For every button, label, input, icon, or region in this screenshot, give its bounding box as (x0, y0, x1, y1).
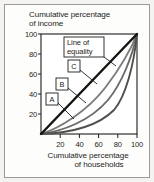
y-axis-title-line2: of income (29, 19, 64, 28)
x-tick-label-100: 100 (131, 140, 143, 149)
chart-canvas: Cumulative percentage of income 100 80 6… (0, 0, 154, 182)
callout-label-curve-c: C (71, 62, 77, 71)
x-axis-title-line2: of households (74, 160, 123, 169)
callout-label-equality-line2: equality (67, 47, 93, 56)
y-tick-label-60: 60 (29, 70, 37, 79)
y-tick-label-80: 80 (29, 50, 37, 59)
y-axis-title-line1: Cumulative percentage (29, 10, 111, 19)
y-tick-label-40: 40 (29, 90, 37, 99)
x-axis-title-line1: Cumulative percentage (47, 151, 129, 160)
lorenz-curve-figure: Cumulative percentage of income 100 80 6… (0, 0, 154, 182)
x-axis-ticks (60, 134, 137, 138)
callout-label-curve-b: B (60, 80, 65, 89)
x-tick-label-60: 60 (95, 140, 103, 149)
callout-label-curve-a: A (50, 95, 55, 104)
y-tick-label-20: 20 (29, 110, 37, 119)
x-tick-label-80: 80 (114, 140, 122, 149)
x-tick-label-40: 40 (75, 140, 83, 149)
callout-label-equality-line1: Line of (67, 38, 90, 47)
y-tick-label-100: 100 (25, 30, 37, 39)
x-tick-label-20: 20 (56, 140, 64, 149)
